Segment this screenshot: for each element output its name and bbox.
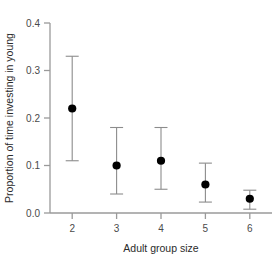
x-tick-label: 2 (69, 223, 75, 234)
data-point-marker (201, 180, 209, 188)
scatter-plot-with-errorbars: 0.00.10.20.30.4 23456 Adult group size P… (0, 0, 275, 264)
y-axis-title: Proportion of time investing in young (3, 33, 15, 203)
data-point-marker (68, 104, 76, 112)
y-tick-label: 0.4 (26, 18, 40, 29)
y-tick-label: 0.1 (26, 160, 40, 171)
x-tick-label: 5 (203, 223, 209, 234)
x-tick-label: 6 (247, 223, 253, 234)
data-point-marker (157, 157, 165, 165)
data-point-marker (113, 161, 121, 169)
x-tick-label: 4 (158, 223, 164, 234)
y-tick-label: 0.0 (26, 208, 40, 219)
plot-background (0, 0, 275, 264)
y-tick-label: 0.3 (26, 65, 40, 76)
y-tick-label: 0.2 (26, 113, 40, 124)
x-tick-label: 3 (114, 223, 120, 234)
data-point-marker (246, 195, 254, 203)
chart-container: 0.00.10.20.30.4 23456 Adult group size P… (0, 0, 275, 264)
x-axis-title: Adult group size (123, 242, 198, 254)
